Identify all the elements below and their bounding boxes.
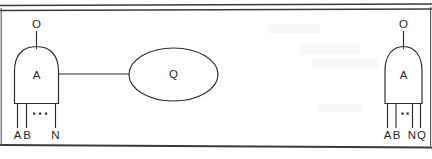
node-q-label: Q (169, 68, 178, 80)
gate-left-input-ellipsis (33, 113, 47, 115)
gate-left-input-label-2: N (51, 129, 59, 141)
top-rule-outer (0, 4, 432, 6)
gate-right-input-label-1: B (393, 129, 401, 141)
gate-left-body-label: A (33, 69, 41, 81)
gate-right-input-ellipsis (402, 113, 409, 115)
gate-left-input-label-0: A (14, 129, 22, 141)
gate-right-input-label-2: N (408, 129, 416, 141)
page-borders (0, 4, 432, 148)
gate-right-output-label: O (399, 18, 408, 30)
gate-right-input-label-0: A (384, 129, 392, 141)
diagram-canvas: O A A B N Q (0, 0, 432, 159)
top-rule-inner (0, 9, 432, 11)
node-q[interactable]: Q (129, 48, 218, 101)
gate-right-body-label: A (400, 69, 408, 81)
gate-right-input-label-3: Q (417, 129, 426, 141)
bottom-rule (0, 145, 432, 148)
figure-root: O A A B N Q (0, 0, 432, 159)
gate-left-input-label-1: B (23, 129, 31, 141)
gate-left[interactable]: O A A B N (14, 18, 60, 141)
gate-right[interactable]: O A A B N Q (384, 18, 426, 141)
gate-left-output-label: O (32, 18, 41, 30)
